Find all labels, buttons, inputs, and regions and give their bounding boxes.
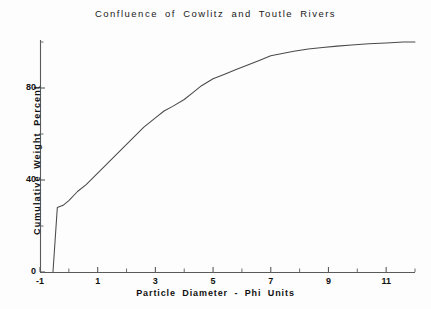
chart-figure: Confluence of Cowlitz and Toutle Rivers … <box>0 0 431 309</box>
x-tick-label: 3 <box>145 276 165 286</box>
x-tick-label: 11 <box>376 276 396 286</box>
plot-area <box>0 0 431 309</box>
cumulative-curve <box>53 42 415 272</box>
x-tick-label: 7 <box>261 276 281 286</box>
x-tick-label: 5 <box>203 276 223 286</box>
x-tick-label: 1 <box>88 276 108 286</box>
x-axis-ticks <box>40 267 415 272</box>
x-axis-title: Particle Diameter - Phi Units <box>0 288 431 298</box>
y-tick-label: 40 <box>14 174 36 184</box>
y-tick-label: 0 <box>14 266 36 276</box>
x-tick-label: -1 <box>30 276 50 286</box>
x-tick-label: 9 <box>318 276 338 286</box>
y-tick-label: 80 <box>14 82 36 92</box>
